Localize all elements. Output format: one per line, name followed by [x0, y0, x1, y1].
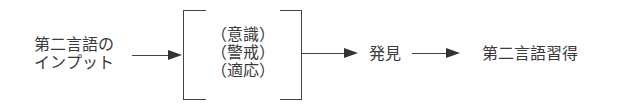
- filter-items: （意識） （警戒） （適応）: [184, 26, 301, 80]
- input-node-line1: 第二言語の: [34, 36, 114, 54]
- discovery-node: 発見: [369, 45, 401, 63]
- arrowhead-icon: [168, 50, 182, 60]
- input-node-line2: インプット: [34, 54, 114, 72]
- arrowhead-icon: [344, 48, 358, 58]
- filter-item-adaptation: （適応）: [184, 62, 301, 80]
- arrowhead-icon: [446, 48, 460, 58]
- input-node: 第二言語の インプット: [34, 36, 114, 72]
- output-node: 第二言語習得: [482, 45, 578, 63]
- filter-item-alertness: （警戒）: [184, 44, 301, 62]
- filter-item-awareness: （意識）: [184, 26, 301, 44]
- right-bracket: [301, 10, 302, 100]
